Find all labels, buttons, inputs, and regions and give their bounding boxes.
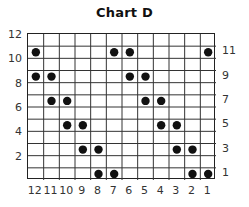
stitch-dot (79, 145, 87, 153)
stitch-dot (141, 72, 149, 80)
column-label: 4 (152, 184, 168, 197)
row-label-left: 8 (4, 78, 22, 90)
row-label-right: 11 (222, 45, 242, 57)
column-label: 11 (43, 184, 59, 197)
stitch-dot (141, 97, 149, 105)
stitch-dot (94, 170, 102, 178)
row-label-left: 2 (4, 151, 22, 163)
stitch-dot (32, 48, 40, 56)
stitch-dot (157, 121, 165, 129)
row-label-left: 12 (4, 29, 22, 41)
column-label: 7 (105, 184, 121, 197)
stitch-dot (63, 121, 71, 129)
stitch-dot (32, 72, 40, 80)
row-label-left: 10 (4, 53, 22, 65)
row-label-right: 1 (222, 167, 242, 179)
column-label: 12 (27, 184, 43, 197)
row-label-right: 5 (222, 118, 242, 130)
stitch-dot (47, 97, 55, 105)
stitch-dot (94, 145, 102, 153)
column-label: 8 (90, 184, 106, 197)
stitch-dot (126, 48, 134, 56)
stitch-dot (110, 48, 118, 56)
column-label: 3 (168, 184, 184, 197)
stitch-dot (204, 170, 212, 178)
row-label-right: 7 (222, 94, 242, 106)
row-label-right: 9 (222, 70, 242, 82)
column-label: 1 (199, 184, 215, 197)
stitch-dot (110, 170, 118, 178)
stitch-dot (47, 72, 55, 80)
stitch-dot (188, 145, 196, 153)
column-label: 9 (74, 184, 90, 197)
stitch-dot (188, 170, 196, 178)
stitch-dot (157, 97, 165, 105)
row-label-left: 6 (4, 102, 22, 114)
grid-lines (28, 34, 216, 180)
row-label-right: 3 (222, 143, 242, 155)
knitting-chart-grid (27, 33, 215, 179)
column-label: 10 (58, 184, 74, 197)
stitch-dot (204, 48, 212, 56)
stitch-dot (173, 145, 181, 153)
stitch-dot (126, 72, 134, 80)
stitch-dot (79, 121, 87, 129)
column-label: 2 (184, 184, 200, 197)
row-label-left: 4 (4, 126, 22, 138)
stitch-dot (173, 121, 181, 129)
column-label: 5 (137, 184, 153, 197)
stitch-dot (63, 97, 71, 105)
chart-title: Chart D (0, 5, 249, 20)
column-label: 6 (121, 184, 137, 197)
